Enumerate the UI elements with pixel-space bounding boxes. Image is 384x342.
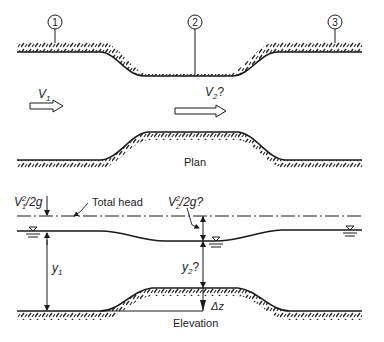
velocity-head-2-label: V22/2g? xyxy=(168,195,204,210)
total-head-label: Total head xyxy=(92,196,143,208)
section-marker-3-label: 3 xyxy=(332,17,338,28)
plan-view: 1 2 3 V1 V2? Plan xyxy=(17,15,362,168)
elevation-caption: Elevation xyxy=(173,317,218,329)
section-marker-1: 1 xyxy=(48,15,62,43)
velocity-head-1-label: V21/2g xyxy=(14,195,43,210)
water-surface xyxy=(17,230,362,241)
water-surface-symbol-1 xyxy=(26,227,40,237)
velocity-arrow-v2: V2? xyxy=(175,85,226,117)
water-surface-symbol-2 xyxy=(209,237,223,247)
depth-2-label: y2? xyxy=(181,260,199,276)
section-marker-2: 2 xyxy=(188,15,202,74)
v2-label: V2? xyxy=(205,85,224,101)
elevation-view: Total head V21/2g xyxy=(14,195,362,329)
plan-caption: Plan xyxy=(184,156,206,168)
depth-1-label: y1 xyxy=(51,261,62,277)
plan-top-bank xyxy=(17,42,362,76)
diagram-canvas: 1 2 3 V1 V2? Plan Total head xyxy=(0,0,384,342)
bed-step-label: Δz xyxy=(210,300,224,312)
v1-label: V1 xyxy=(38,87,50,103)
section-marker-3: 3 xyxy=(328,15,342,43)
velocity-arrow-v1: V1 xyxy=(30,87,63,112)
water-surface-symbol-3 xyxy=(343,226,357,236)
section-marker-2-label: 2 xyxy=(192,17,198,28)
channel-bed xyxy=(17,288,362,320)
section-marker-1-label: 1 xyxy=(52,17,58,28)
